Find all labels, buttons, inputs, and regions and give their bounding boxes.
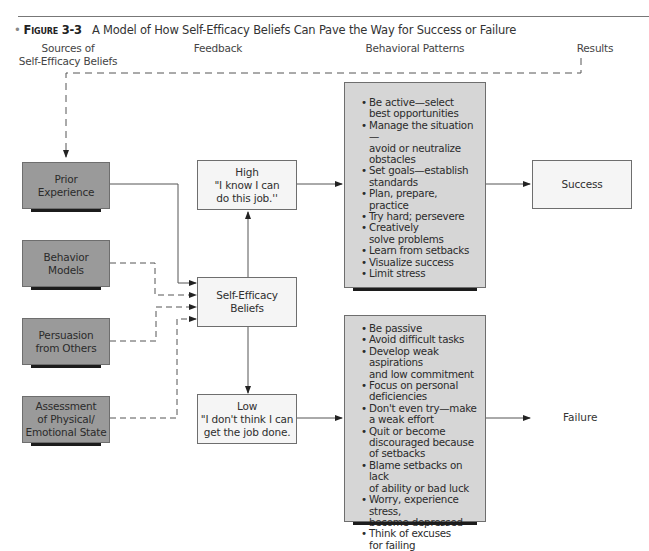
high-quote: "I know I can do this job.''	[214, 179, 279, 205]
pattern-item: Don't even try—make a weak effort	[361, 403, 479, 426]
high-patterns-list: Be active—select best opportunities Mana…	[361, 97, 479, 280]
pattern-item: Think of excuses for failing	[361, 528, 479, 551]
source-label: Prior Experience	[38, 173, 95, 199]
high-feedback-box: High "I know I can do this job.''	[197, 160, 297, 210]
pattern-item: Focus on personal deficiencies	[361, 380, 479, 403]
source-label: Behavior Models	[43, 251, 88, 277]
low-patterns-panel: Be passive Avoid difficult tasks Develop…	[344, 315, 486, 522]
pattern-item: Plan, prepare, practice	[361, 188, 479, 211]
pattern-item: Set goals—establish standards	[361, 165, 479, 188]
high-patterns-panel: Be active—select best opportunities Mana…	[344, 82, 486, 288]
low-feedback-box: Low "I don't think I can get the job don…	[197, 394, 297, 444]
pattern-item: Manage the situation— avoid or neutraliz…	[361, 120, 479, 166]
center-label: Self-Efficacy Beliefs	[216, 289, 278, 315]
source-prior-experience: Prior Experience	[22, 162, 110, 209]
failure-result-label: Failure	[563, 411, 598, 423]
low-patterns-list: Be passive Avoid difficult tasks Develop…	[361, 323, 479, 551]
source-behavior-models: Behavior Models	[22, 240, 110, 287]
pattern-item: Blame setbacks on lack of ability or bad…	[361, 460, 479, 494]
pattern-item: Worry, experience stress, become depress…	[361, 494, 479, 528]
pattern-item: Limit stress	[361, 268, 479, 279]
low-quote: "I don't think I can get the job done.	[201, 413, 293, 439]
source-label: Persuasion from Others	[36, 329, 97, 355]
source-persuasion: Persuasion from Others	[22, 318, 110, 365]
low-level-label: Low	[237, 400, 257, 413]
feedback-loop-line	[66, 58, 581, 157]
self-efficacy-beliefs-box: Self-Efficacy Beliefs	[197, 277, 297, 327]
pattern-item: Be active—select best opportunities	[361, 97, 479, 120]
success-result-box: Success	[532, 160, 632, 209]
pattern-item: Learn from setbacks	[361, 245, 479, 256]
success-label: Success	[562, 178, 603, 191]
pattern-item: Quit or become discouraged because of se…	[361, 426, 479, 460]
high-level-label: High	[235, 166, 258, 179]
source-assessment: Assessment of Physical/ Emotional State	[22, 396, 110, 443]
source-label: Assessment of Physical/ Emotional State	[26, 400, 107, 439]
pattern-item: Develop weak aspirations and low commitm…	[361, 346, 479, 380]
pattern-item: Creatively solve problems	[361, 222, 479, 245]
